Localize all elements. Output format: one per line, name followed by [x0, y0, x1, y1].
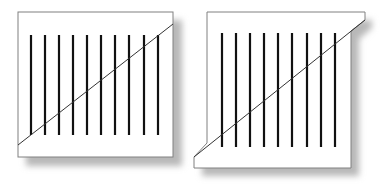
poggendorff-figure — [0, 0, 381, 186]
right-panel — [194, 12, 372, 176]
right-panel-frame — [194, 12, 365, 168]
left-panel — [18, 12, 182, 166]
